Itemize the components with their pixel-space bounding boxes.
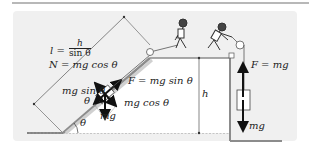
pulley-vertical-icon (236, 41, 244, 49)
height-label: h (202, 89, 208, 99)
angle-force-label: θ (84, 96, 90, 106)
mgcos-label: mg cos θ (124, 98, 169, 108)
pulley-incline-icon (147, 49, 154, 56)
pull-force-incline-label: F = mg sin θ (128, 76, 193, 86)
length-label-lhs: l = (50, 46, 65, 56)
normal-force-label: N = mg cos θ (49, 60, 118, 70)
gravity-incline-label: mg (100, 111, 116, 121)
length-fraction-den: sin θ (69, 49, 91, 58)
angle-base-label: θ (80, 118, 86, 128)
person-pulling-vertical-icon (208, 23, 232, 50)
length-fraction: h sin θ (69, 39, 91, 58)
person-pulling-incline-icon (175, 19, 187, 48)
gravity-vertical-label: mg (249, 121, 265, 131)
pull-force-vertical-label: F = mg (251, 60, 289, 70)
